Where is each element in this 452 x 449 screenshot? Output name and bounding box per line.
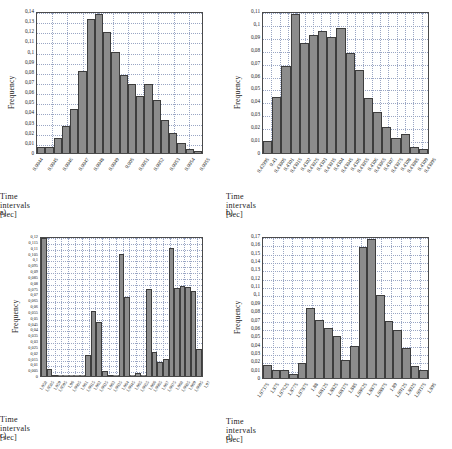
y-tick-label: 0,055	[28, 310, 38, 315]
y-axis-title: Frequency	[11, 300, 20, 333]
y-tick-label: 0,02	[251, 126, 260, 131]
y-tick-label: 0,1	[28, 50, 34, 55]
y-tick-label: 0,04	[251, 343, 260, 348]
y-tick-label: 0,12	[30, 234, 38, 239]
histogram-bars	[37, 13, 202, 153]
histogram-bar	[419, 149, 428, 153]
histogram-bar	[341, 360, 350, 378]
y-tick-label: 0,01	[25, 141, 34, 146]
y-tick-label: 0,14	[25, 9, 34, 14]
histogram-bar	[95, 14, 103, 153]
y-tick-label: 0,02	[30, 351, 38, 356]
y-tick-label: 0,1	[33, 258, 38, 263]
y-tick-label: 0,08	[30, 281, 38, 286]
histogram-bar	[376, 295, 385, 378]
y-tick-label: 0	[257, 151, 260, 156]
y-tick-label: 0,065	[28, 299, 38, 304]
histogram-bar	[309, 35, 318, 153]
y-tick-label: 0,01	[251, 138, 260, 143]
y-tick-label: 0,01	[251, 368, 260, 373]
histogram-bar	[336, 28, 345, 153]
plot-frame	[40, 237, 203, 377]
y-tick-label: 0,05	[25, 101, 34, 106]
histogram-bar	[306, 308, 315, 378]
histogram-bar	[196, 349, 202, 376]
histogram-bar	[324, 328, 333, 378]
y-tick-label: 0,13	[251, 268, 260, 273]
histogram-bar	[280, 370, 289, 378]
y-tick-label: 0,07	[251, 61, 260, 66]
histogram-bar	[272, 97, 281, 153]
y-tick-label: 0,03	[30, 339, 38, 344]
y-tick-label: 0	[31, 151, 34, 156]
y-tick-label: 0,015	[28, 357, 38, 362]
histogram-bar	[291, 14, 300, 153]
histogram-bar	[186, 149, 194, 153]
histogram-bar	[263, 141, 272, 153]
plot-frame	[262, 237, 429, 379]
histogram-bar	[419, 370, 428, 378]
y-tick-label: 0,11	[251, 9, 260, 14]
y-tick-label: 0,08	[25, 70, 34, 75]
histogram-bar	[385, 321, 394, 378]
histogram-bar	[333, 336, 342, 378]
histogram-bar	[161, 120, 169, 153]
histogram-bar	[96, 322, 102, 376]
histogram-bar	[37, 147, 45, 153]
histogram-bar	[124, 297, 130, 376]
histogram-bar	[70, 109, 78, 153]
histogram-bar	[144, 84, 152, 153]
y-tick-label: 0,09	[251, 35, 260, 40]
y-tick-label: 0,105	[28, 252, 38, 257]
panel-b: Frequency00,010,020,030,040,050,060,070,…	[226, 0, 452, 224]
plot-frame	[36, 12, 203, 154]
y-tick-label: 0,11	[31, 246, 38, 251]
histogram-bar	[410, 147, 419, 153]
histogram-bar	[391, 138, 400, 153]
plot-frame	[262, 12, 429, 154]
histogram-bar	[355, 70, 364, 153]
y-tick-label: 0,04	[30, 328, 38, 333]
y-tick-label: 0,03	[251, 351, 260, 356]
y-tick-label: 0,045	[28, 322, 38, 327]
histogram-bar	[318, 31, 327, 153]
y-tick-label: 0,11	[251, 285, 260, 290]
histogram-bar	[359, 247, 368, 378]
figure-sheet: Frequency00,010,020,030,040,050,060,070,…	[0, 0, 452, 449]
y-axis-title: Frequency	[233, 301, 242, 334]
y-tick-label: 0,06	[251, 74, 260, 79]
histogram-bar	[194, 151, 202, 153]
y-tick-label: 0,16	[251, 243, 260, 248]
y-tick-label: 0	[36, 374, 38, 379]
histogram-bar	[315, 320, 324, 378]
y-tick-label: 0	[257, 376, 260, 381]
histogram-bar	[300, 43, 309, 153]
y-tick-label: 0,09	[25, 60, 34, 65]
histogram-bar	[111, 52, 119, 153]
y-tick-label: 0,005	[28, 369, 38, 374]
y-tick-label: 0,06	[30, 304, 38, 309]
histogram-bar	[346, 53, 355, 153]
histogram-bar	[45, 147, 53, 153]
y-tick-label: 0,09	[30, 269, 38, 274]
histogram-bar	[177, 143, 185, 153]
histogram-bar	[87, 19, 95, 153]
y-tick-label: 0,02	[251, 360, 260, 365]
y-tick-label: 0,05	[30, 316, 38, 321]
y-tick-label: 0,07	[251, 318, 260, 323]
histogram-bars	[41, 238, 202, 376]
histogram-bar	[289, 374, 298, 378]
histogram-bar	[402, 348, 411, 378]
y-tick-label: 0,095	[28, 264, 38, 269]
y-tick-label: 0,08	[251, 310, 260, 315]
y-tick-label: 0,1	[254, 293, 260, 298]
histogram-bar	[78, 71, 86, 153]
y-tick-label: 0,03	[25, 121, 34, 126]
histogram-bar	[54, 138, 62, 153]
y-tick-label: 0,17	[251, 234, 260, 239]
y-axis-title: Frequency	[7, 76, 16, 109]
histogram-bar	[393, 330, 402, 378]
histogram-bar	[382, 127, 391, 153]
y-tick-label: 0,01	[30, 363, 38, 368]
histogram-bar	[136, 96, 144, 153]
